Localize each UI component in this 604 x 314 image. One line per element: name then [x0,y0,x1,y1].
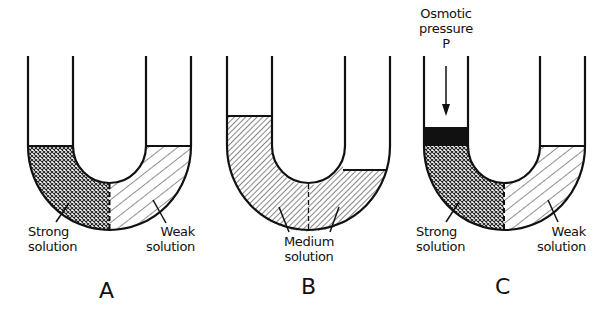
label-line: solution [137,239,195,254]
label-line: solution [528,239,586,254]
panel-b-letter: B [301,274,316,299]
panel-c-letter: C [495,274,510,299]
panel-c-strong-label: Strong solution [416,224,465,254]
panel-a-strong-solution-fill [28,146,110,230]
panel-b-medium-label: Medium solution [278,234,340,264]
osmosis-diagram [0,0,604,314]
panel-a-weak-label: Weak solution [137,224,195,254]
label-line: Strong [416,224,465,239]
label-line: P [412,36,480,51]
label-line: Medium [278,234,340,249]
label-line: solution [416,239,465,254]
label-line: Weak [137,224,195,239]
panel-a-strong-label: Strong solution [28,224,77,254]
panel-c-osmotic-pressure-label: Osmotic pressure P [412,6,480,51]
label-line: Weak [528,224,586,239]
label-line: Strong [28,224,77,239]
label-line: pressure [412,21,480,36]
label-line: Osmotic [412,6,480,21]
panel-b-medium-solution-fill-main [227,116,387,231]
panel-b-u-tube [227,56,390,232]
panel-c-weak-label: Weak solution [528,224,586,254]
panel-c-piston [424,127,468,146]
panel-c-u-tube [424,56,585,230]
panel-c-weak-solution-fill [504,146,585,230]
panel-a-weak-solution-fill [110,146,192,230]
label-line: solution [278,249,340,264]
panel-a-u-tube [28,56,191,230]
label-line: solution [28,239,77,254]
panel-a-letter: A [99,278,114,303]
